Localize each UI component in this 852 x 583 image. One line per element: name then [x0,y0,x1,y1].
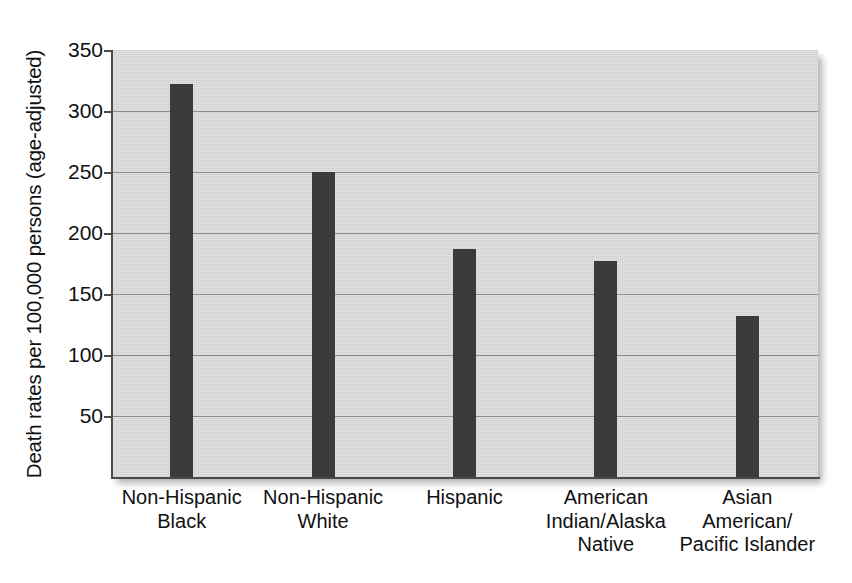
y-tick-mark [104,50,111,52]
category-label-line: White [233,510,413,534]
y-tick-mark [104,355,111,357]
gridline [113,233,818,234]
y-tick-mark [104,111,111,113]
category-label-line: American/ [657,510,837,534]
gridline [113,172,818,173]
y-tick-label: 350 [3,39,103,60]
bar [453,249,476,477]
y-tick-label: 200 [3,222,103,243]
y-tick-label: 300 [3,100,103,121]
y-tick-label: 150 [3,283,103,304]
y-tick-mark [104,294,111,296]
y-tick-mark [104,233,111,235]
y-tick-mark [104,172,111,174]
y-tick-label: 50 [3,405,103,426]
bar-chart-figure: Death rates per 100,000 persons (age-adj… [0,0,852,583]
x-axis-category-label: AsianAmerican/Pacific Islander [657,486,837,557]
bar [736,316,759,477]
y-tick-label: 100 [3,344,103,365]
bar [170,84,193,477]
category-label-line: Pacific Islander [657,533,837,557]
x-axis-baseline [111,477,820,479]
bar [312,172,335,477]
y-tick-label: 250 [3,161,103,182]
y-tick-mark [104,416,111,418]
gridline [113,111,818,112]
bar [594,261,617,477]
y-axis-tick-group: 50100150200250300350 [0,50,103,478]
category-label-line: Asian [657,486,837,510]
